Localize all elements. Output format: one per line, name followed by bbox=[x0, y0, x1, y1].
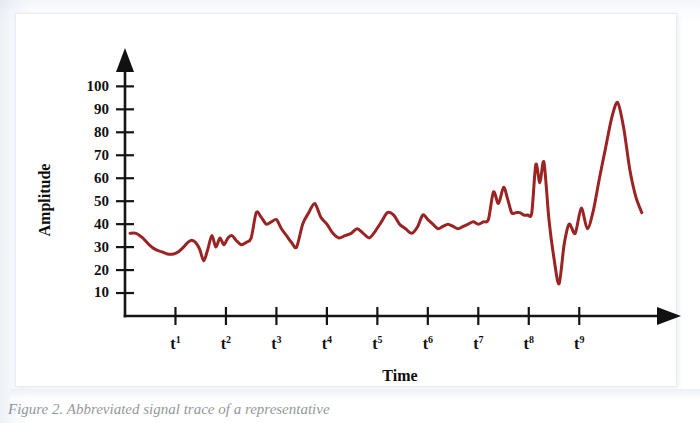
x-tick-label: t7 bbox=[473, 334, 483, 352]
y-tick-label: 90 bbox=[94, 101, 109, 117]
figure-caption-text: Figure 2. Abbreviated signal trace of a … bbox=[8, 401, 330, 418]
x-tick-group: t1t2t3t4t5t6t7t8t9 bbox=[170, 307, 584, 352]
x-tick-label: t3 bbox=[271, 334, 281, 352]
x-tick-superscript: 4 bbox=[327, 334, 332, 345]
x-tick-label: t9 bbox=[574, 334, 584, 352]
figure-caption-strip: Figure 2. Abbreviated signal trace of a … bbox=[0, 399, 700, 423]
y-tick-label: 20 bbox=[94, 262, 109, 278]
x-axis-title-text: Time bbox=[382, 367, 417, 384]
y-axis-title-text: Amplitude bbox=[36, 164, 54, 237]
x-tick-superscript: 1 bbox=[176, 334, 181, 345]
arrow-right-icon bbox=[657, 307, 681, 325]
y-tick-label: 40 bbox=[94, 216, 109, 232]
y-tick-label: 100 bbox=[87, 78, 110, 94]
x-tick-label: t1 bbox=[170, 334, 180, 352]
amplitude-time-line-chart: Amplitude 102030405060708090100 t1t2t3t4… bbox=[0, 0, 700, 423]
x-tick-superscript: 7 bbox=[478, 334, 483, 345]
x-tick-superscript: 6 bbox=[428, 334, 433, 345]
x-tick-label: t2 bbox=[221, 334, 231, 352]
y-tick-label: 30 bbox=[94, 239, 109, 255]
y-tick-label: 70 bbox=[94, 147, 109, 163]
x-tick-superscript: 9 bbox=[579, 334, 584, 345]
series-group bbox=[130, 102, 642, 284]
x-tick-label: t6 bbox=[423, 334, 433, 352]
x-tick-superscript: 2 bbox=[226, 334, 231, 345]
x-tick-label: t4 bbox=[322, 334, 332, 352]
y-tick-label: 80 bbox=[94, 124, 109, 140]
x-tick-label: t5 bbox=[372, 334, 382, 352]
figure-root: Amplitude 102030405060708090100 t1t2t3t4… bbox=[0, 0, 700, 423]
series-line-amplitude bbox=[130, 102, 642, 284]
x-tick-label: t8 bbox=[524, 334, 534, 352]
y-axis: 102030405060708090100 bbox=[87, 48, 135, 316]
x-tick-superscript: 8 bbox=[529, 334, 534, 345]
y-tick-label: 60 bbox=[94, 170, 109, 186]
x-tick-superscript: 5 bbox=[378, 334, 383, 345]
arrow-up-icon bbox=[116, 48, 134, 72]
x-tick-superscript: 3 bbox=[277, 334, 282, 345]
y-axis-title: Amplitude bbox=[36, 164, 54, 237]
y-tick-label: 10 bbox=[94, 284, 109, 300]
y-tick-group: 102030405060708090100 bbox=[87, 78, 135, 301]
y-tick-label: 50 bbox=[94, 193, 109, 209]
x-axis: t1t2t3t4t5t6t7t8t9 bbox=[125, 307, 681, 352]
